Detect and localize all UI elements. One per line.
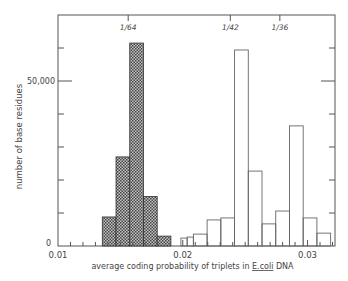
y-tick-label: 50,000 xyxy=(27,77,55,86)
open-bar xyxy=(303,218,317,246)
open-bar xyxy=(317,233,331,246)
axis-ticks xyxy=(58,15,335,246)
x-axis-label: average coding probability of triplets i… xyxy=(91,262,294,271)
open-bar xyxy=(276,211,290,246)
hatched-bar xyxy=(102,217,116,246)
open-bar xyxy=(248,171,262,246)
histogram-chart: 1/641/421/360.010.020.03050,000number of… xyxy=(0,0,348,281)
axes-box xyxy=(58,15,335,246)
hatched-bars xyxy=(102,43,171,246)
open-bar xyxy=(235,50,249,246)
y-tick-label: 0 xyxy=(46,239,51,248)
open-bar xyxy=(221,218,235,246)
open-bar xyxy=(262,224,276,246)
hatched-bar xyxy=(157,236,171,246)
top-marker-label: 1/42 xyxy=(222,23,239,32)
x-tick-label: 0.02 xyxy=(173,250,192,260)
open-bar xyxy=(181,238,187,246)
hatched-bar xyxy=(143,197,157,247)
open-bars xyxy=(181,50,331,246)
hatched-bar xyxy=(116,157,130,246)
open-bar xyxy=(187,237,193,246)
top-marker-label: 1/36 xyxy=(271,23,288,32)
hatched-bar xyxy=(130,43,144,246)
open-bar xyxy=(289,126,303,246)
x-tick-label: 0.01 xyxy=(49,250,68,260)
x-tick-label: 0.03 xyxy=(298,250,317,260)
y-axis-label: number of base residues xyxy=(14,83,24,189)
plot-frame xyxy=(58,15,335,246)
open-bar xyxy=(207,220,221,246)
top-marker-label: 1/64 xyxy=(120,23,137,32)
